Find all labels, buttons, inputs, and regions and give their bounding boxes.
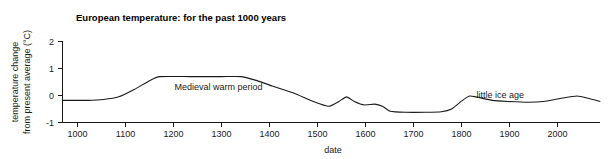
x-axis-label: date (324, 145, 342, 155)
temperature-line-chart: European temperature: for the past 1000 … (0, 0, 613, 159)
x-tick-label-1200: 1200 (163, 129, 183, 139)
x-tick-label-1300: 1300 (211, 129, 231, 139)
x-axis-ticks (78, 123, 558, 128)
x-tick-label-1800: 1800 (451, 129, 471, 139)
annotation-medieval-warm-period: Medieval warm period (175, 82, 263, 92)
x-tick-label-1600: 1600 (355, 129, 375, 139)
y-tick-label-1: 1 (49, 64, 54, 74)
y-axis-label-line2: from present average (°C) (22, 30, 32, 134)
y-axis-label-line1: temperature change (10, 42, 20, 123)
annotation-little-ice-age: little ice age (476, 90, 524, 100)
x-tick-label-1400: 1400 (259, 129, 279, 139)
x-axis: 1000 1100 1200 1300 1400 1500 1600 1700 … (63, 123, 601, 156)
y-tick-label-neg1: -1 (46, 118, 54, 128)
chart-title: European temperature: for the past 1000 … (76, 12, 286, 23)
x-tick-label-2000: 2000 (547, 129, 567, 139)
x-tick-label-1700: 1700 (403, 129, 423, 139)
x-tick-label-1100: 1100 (116, 129, 135, 139)
y-axis-ticks (58, 42, 63, 123)
x-tick-label-1900: 1900 (499, 129, 519, 139)
x-tick-label-1000: 1000 (67, 129, 87, 139)
y-tick-label-0: 0 (49, 91, 54, 101)
chart-container: European temperature: for the past 1000 … (0, 0, 613, 159)
y-axis: 2 1 0 -1 (46, 37, 63, 128)
y-tick-label-2: 2 (49, 37, 54, 47)
x-tick-label-1500: 1500 (307, 129, 327, 139)
